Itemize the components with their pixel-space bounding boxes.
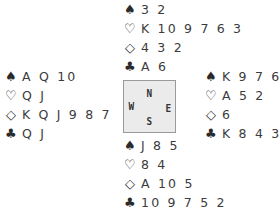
spade-icon: ♠ [205,67,219,86]
spade-icon: ♠ [5,67,19,86]
diamond-icon: ◇ [205,105,219,124]
diamond-icon: ◇ [124,38,138,57]
compass-north: N [146,87,152,100]
heart-icon: ♡ [124,19,138,38]
club-icon: ♣ [5,124,19,143]
club-icon: ♣ [205,124,219,143]
club-icon: ♣ [124,193,138,212]
spade-icon: ♠ [124,0,138,19]
compass-west: W [128,100,134,113]
diamond-icon: ◇ [5,105,19,124]
compass-south: S [146,115,152,128]
compass-box: N W E S [123,80,176,133]
club-icon: ♣ [124,57,138,76]
diamond-icon: ◇ [124,174,138,193]
heart-icon: ♡ [205,86,219,105]
compass-east: E [165,102,171,115]
heart-icon: ♡ [124,155,138,174]
heart-icon: ♡ [5,86,19,105]
spade-icon: ♠ [124,136,138,155]
